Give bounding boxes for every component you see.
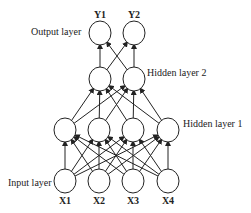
connection-arrow xyxy=(140,88,162,121)
neuron-node xyxy=(89,67,111,91)
neuron-node xyxy=(54,169,76,193)
neuron-node xyxy=(123,67,145,91)
neuron-node xyxy=(157,169,179,193)
node-label: X4 xyxy=(162,195,174,206)
node-label: X3 xyxy=(127,195,139,206)
layer-label: Output layer xyxy=(31,26,82,37)
layer-label: Hidden layer 1 xyxy=(183,118,242,129)
layer-label: Hidden layer 2 xyxy=(147,67,206,78)
neuron-node xyxy=(157,118,179,142)
connections xyxy=(65,42,168,176)
connection-arrow xyxy=(71,88,94,121)
neuron-node xyxy=(123,21,145,45)
neuron-node xyxy=(89,21,111,45)
node-label: X1 xyxy=(59,195,71,206)
neuron-node xyxy=(88,169,110,193)
neuron-node xyxy=(88,118,110,142)
node-label: X2 xyxy=(93,195,105,206)
neural-network-diagram: X1X2X3X4Input layerHidden layer 1Hidden … xyxy=(0,0,251,213)
neuron-node xyxy=(122,169,144,193)
node-label: Y1 xyxy=(94,9,106,20)
neuron-node xyxy=(122,118,144,142)
neurons xyxy=(54,21,179,193)
node-label: Y2 xyxy=(128,9,140,20)
layer-label: Input layer xyxy=(8,177,52,188)
neuron-node xyxy=(54,118,76,142)
connection-arrow xyxy=(99,90,100,119)
